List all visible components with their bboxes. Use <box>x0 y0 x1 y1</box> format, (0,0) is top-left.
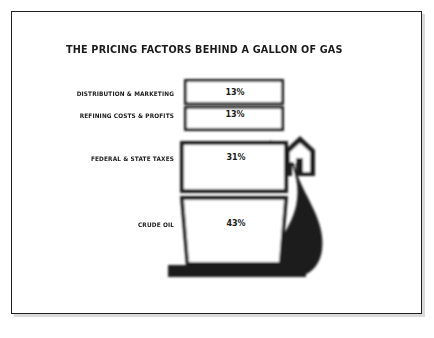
label-distribution-and-marketing: DISTRIBUTION & MARKETING <box>35 90 175 97</box>
label-crude-oil: CRUDE OIL <box>35 221 175 228</box>
value-refining-costs-and-profits: 13% <box>183 110 287 119</box>
value-crude-oil: 43% <box>178 219 294 228</box>
infographic-canvas: THE PRICING FACTORS BEHIND A GALLON OF G… <box>0 0 434 338</box>
band-taxes-fill <box>184 145 284 189</box>
label-federal-and-state-taxes: FEDERAL & STATE TAXES <box>35 155 175 162</box>
gas-pump-illustration <box>0 0 434 338</box>
label-refining-costs-and-profits: REFINING COSTS & PROFITS <box>35 112 175 119</box>
value-distribution-and-marketing: 13% <box>183 88 287 97</box>
pump-nozzle-trigger <box>296 158 303 174</box>
pump-base <box>168 265 306 277</box>
value-federal-and-state-taxes: 31% <box>178 153 294 162</box>
band-crude-oil-fill <box>184 200 284 262</box>
